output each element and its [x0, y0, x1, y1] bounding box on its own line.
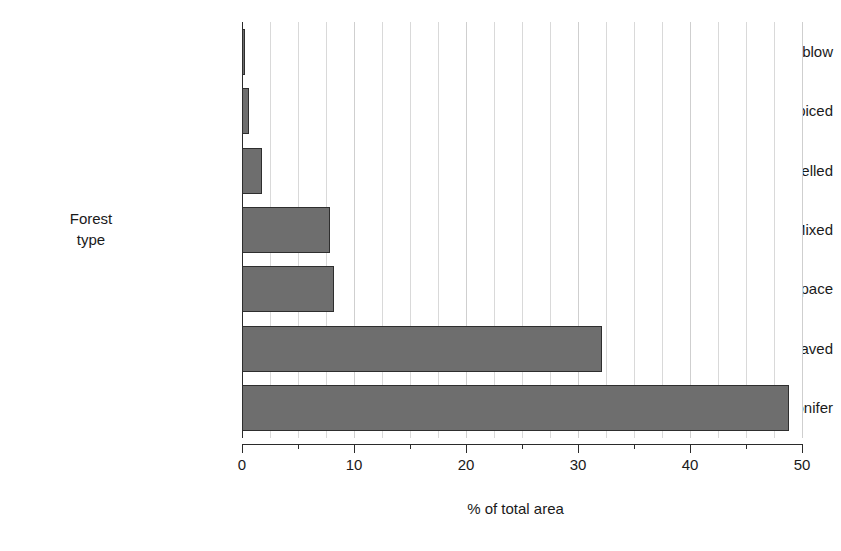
- x-axis-major-tick: [354, 444, 355, 453]
- y-axis-title-line-1: Forest: [70, 210, 113, 227]
- bar-chart: Forest type WindblowCoppicedFelledMixedO…: [0, 0, 841, 551]
- x-axis-minor-tick: [746, 444, 747, 449]
- bar-series: [242, 22, 802, 438]
- bar-row: [242, 29, 802, 75]
- x-axis-major-tick: [578, 444, 579, 453]
- bar-row: [242, 266, 802, 312]
- bar: [242, 207, 330, 253]
- bar-row: [242, 326, 802, 372]
- x-axis-tick-label: 20: [436, 456, 496, 474]
- bar: [242, 385, 789, 431]
- bar: [242, 326, 602, 372]
- x-axis-tick-label: 10: [324, 456, 384, 474]
- bar-row: [242, 207, 802, 253]
- x-axis-minor-tick: [634, 444, 635, 449]
- x-axis-minor-tick: [410, 444, 411, 449]
- x-axis-title: % of total area: [0, 500, 841, 517]
- x-axis-tick-label: 40: [660, 456, 720, 474]
- x-axis-tick-label: 0: [212, 456, 272, 474]
- bar-row: [242, 148, 802, 194]
- bar: [242, 29, 245, 75]
- x-axis-tick-label: 30: [548, 456, 608, 474]
- x-axis-major-tick: [690, 444, 691, 453]
- y-axis-title: Forest type: [36, 208, 146, 250]
- x-axis-minor-tick: [298, 444, 299, 449]
- x-axis-minor-tick: [522, 444, 523, 449]
- x-axis-title-text: % of total area: [467, 500, 564, 517]
- y-axis-title-line-2: type: [36, 229, 146, 250]
- bar: [242, 148, 262, 194]
- bar-row: [242, 88, 802, 134]
- x-axis-major-tick: [802, 444, 803, 453]
- x-axis-major-tick: [242, 444, 243, 453]
- x-axis-tick-label: 50: [772, 456, 832, 474]
- bar: [242, 88, 249, 134]
- plot-area: [242, 22, 802, 438]
- x-axis-major-tick: [466, 444, 467, 453]
- bar: [242, 266, 334, 312]
- bar-row: [242, 385, 802, 431]
